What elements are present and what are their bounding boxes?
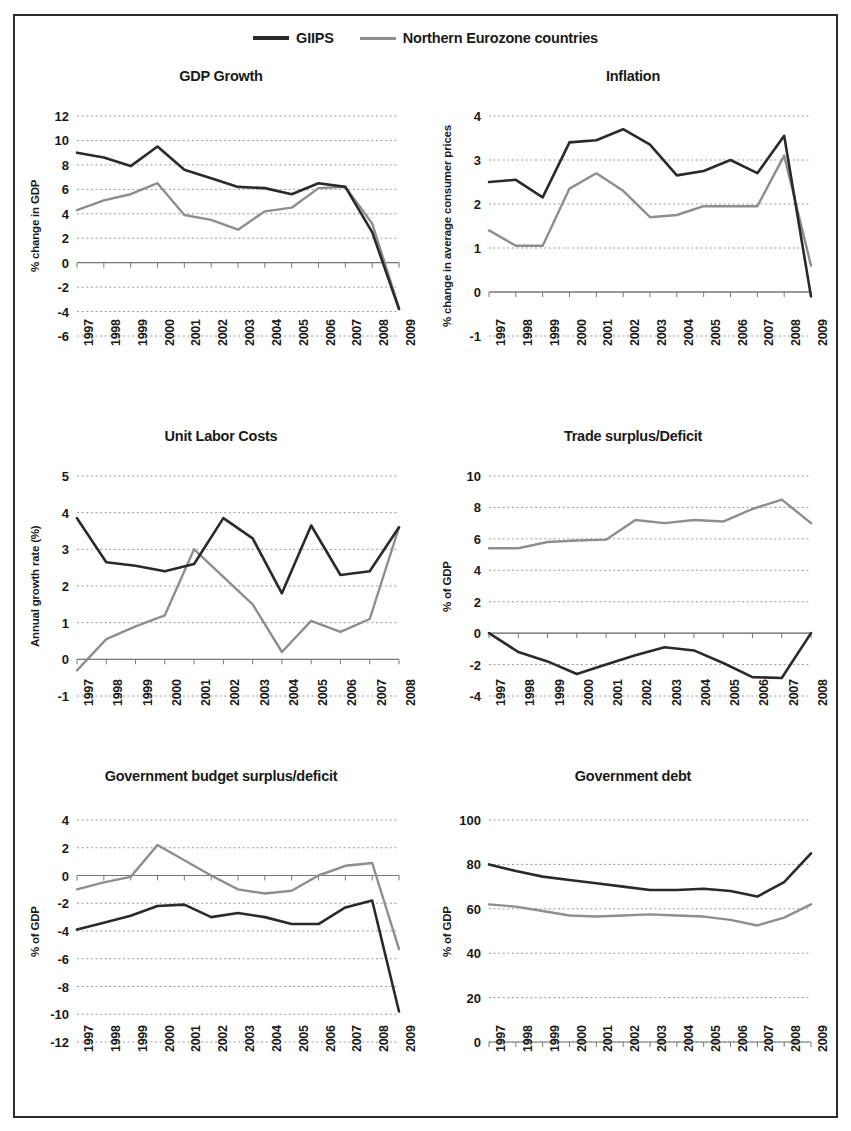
x-tick-label: 1997: [494, 1025, 508, 1052]
panel-government-budget: Government budget surplus/deficit 420-2-…: [15, 768, 427, 1118]
x-tick-label: 2008: [789, 319, 803, 346]
x-tick-label: 1998: [523, 679, 537, 706]
x-tick-label: 2001: [601, 1025, 615, 1052]
y-tick-label: 1: [427, 241, 481, 256]
y-tick-label: -6: [15, 951, 69, 966]
panel-title: GDP Growth: [15, 68, 427, 84]
y-tick-label: 10: [15, 133, 69, 148]
series-line: [489, 156, 811, 266]
x-tick-label: 2008: [377, 1025, 391, 1052]
panel-gdp-growth: GDP Growth 121086420-2-4-6% change in GD…: [15, 68, 427, 408]
plot-area: [489, 116, 811, 336]
plot-area: [77, 476, 399, 696]
x-tick-label: 1998: [109, 319, 123, 346]
x-tick-label: 1999: [548, 319, 562, 346]
y-tick-label: -12: [15, 1035, 69, 1050]
x-tick-label: 1999: [141, 679, 155, 706]
x-tick-label: 2005: [728, 679, 742, 706]
x-tick-label: 1997: [82, 1025, 96, 1052]
series-line: [489, 853, 811, 896]
x-tick-label: 2000: [582, 679, 596, 706]
x-tick-label: 2003: [670, 679, 684, 706]
y-tick-label: 2: [15, 231, 69, 246]
legend-entry-northern: Northern Eurozone countries: [360, 30, 598, 46]
x-tick-label: 2003: [655, 319, 669, 346]
y-tick-label: 8: [427, 500, 481, 515]
series-line: [77, 518, 399, 593]
x-tick-label: 2009: [816, 1025, 830, 1052]
y-tick-label: 3: [15, 542, 69, 557]
x-tick-label: 2001: [189, 319, 203, 346]
x-tick-label: 2000: [575, 319, 589, 346]
x-tick-label: 2008: [377, 319, 391, 346]
y-tick-label: 2: [15, 840, 69, 855]
legend-swatch-giips: [253, 36, 289, 40]
series-line: [77, 527, 399, 670]
x-tick-label: 2004: [682, 1025, 696, 1052]
y-tick-label: 3: [427, 153, 481, 168]
y-axis-label: % change in GDP: [29, 180, 41, 272]
x-tick-label: 2005: [297, 319, 311, 346]
panel-government-debt: Government debt 100806040200% of GDP1997…: [427, 768, 839, 1118]
y-tick-label: 0: [15, 255, 69, 270]
y-tick-label: 4: [15, 206, 69, 221]
x-tick-label: 2002: [216, 319, 230, 346]
x-tick-label: 2001: [189, 1025, 203, 1052]
figure-frame: GIIPS Northern Eurozone countries GDP Gr…: [13, 14, 838, 1118]
y-tick-label: -2: [15, 280, 69, 295]
x-tick-label: 2002: [216, 1025, 230, 1052]
y-tick-label: 2: [427, 594, 481, 609]
x-tick-label: 2008: [404, 679, 418, 706]
series-line: [489, 633, 811, 678]
x-tick-label: 2004: [270, 1025, 284, 1052]
x-tick-label: 2003: [243, 319, 257, 346]
panel-title: Government budget surplus/deficit: [15, 768, 427, 784]
plot-area: [489, 476, 811, 696]
x-tick-label: 2005: [297, 1025, 311, 1052]
series-line: [489, 904, 811, 925]
y-tick-label: 8: [15, 157, 69, 172]
y-tick-label: -2: [427, 657, 481, 672]
x-tick-label: 2005: [709, 1025, 723, 1052]
series-line: [77, 900, 399, 1011]
panel-title: Government debt: [427, 768, 839, 784]
y-tick-label: 0: [15, 868, 69, 883]
x-tick-label: 2009: [816, 319, 830, 346]
series-line: [77, 183, 399, 308]
x-tick-label: 2008: [789, 1025, 803, 1052]
x-tick-label: 2005: [316, 679, 330, 706]
y-tick-label: 5: [15, 469, 69, 484]
x-tick-label: 2007: [787, 679, 801, 706]
y-tick-label: -1: [15, 689, 69, 704]
plot-area: [77, 116, 399, 336]
y-tick-label: -6: [15, 329, 69, 344]
x-tick-label: 2009: [404, 319, 418, 346]
x-tick-label: 2004: [699, 679, 713, 706]
y-tick-label: 1: [15, 615, 69, 630]
y-tick-label: -8: [15, 979, 69, 994]
panel-unit-labor-costs: Unit Labor Costs 543210-1Annual growth r…: [15, 428, 427, 768]
y-tick-label: 20: [427, 990, 481, 1005]
x-tick-label: 2001: [601, 319, 615, 346]
x-tick-label: 2000: [170, 679, 184, 706]
x-tick-label: 2006: [324, 1025, 338, 1052]
y-axis-label: % of GDP: [441, 906, 453, 957]
x-tick-label: 1999: [548, 1025, 562, 1052]
x-tick-label: 2009: [404, 1025, 418, 1052]
panel-trade-surplus-deficit: Trade surplus/Deficit 1086420-2-4% of GD…: [427, 428, 839, 768]
x-tick-label: 2006: [736, 1025, 750, 1052]
y-axis-label: % of GDP: [441, 561, 453, 612]
x-tick-label: 2006: [345, 679, 359, 706]
x-tick-label: 2003: [258, 679, 272, 706]
y-tick-label: 0: [427, 285, 481, 300]
x-tick-label: 1998: [111, 679, 125, 706]
x-tick-label: 2001: [199, 679, 213, 706]
plot-svg: [77, 476, 399, 696]
x-tick-label: 1998: [521, 1025, 535, 1052]
x-tick-label: 2003: [243, 1025, 257, 1052]
x-tick-label: 2004: [682, 319, 696, 346]
y-tick-label: 4: [15, 813, 69, 828]
legend-swatch-northern: [360, 37, 396, 40]
x-tick-label: 2002: [228, 679, 242, 706]
x-tick-label: 2006: [324, 319, 338, 346]
